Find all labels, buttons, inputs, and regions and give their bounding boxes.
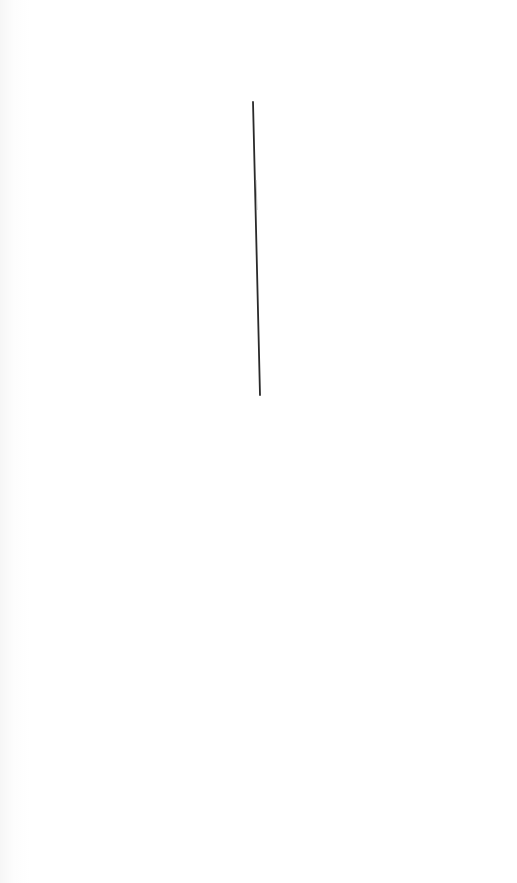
thin-vertical-line-graphic	[0, 0, 517, 883]
photo-scene	[0, 0, 517, 883]
